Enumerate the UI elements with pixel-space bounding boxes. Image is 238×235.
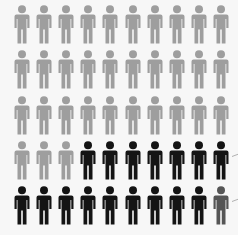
- person-icon: [80, 50, 96, 90]
- person-icon: [102, 186, 118, 226]
- person-icon: [125, 5, 141, 45]
- person-icon: [191, 5, 207, 45]
- person-icon: [169, 141, 185, 181]
- person-icon: [169, 5, 185, 45]
- person-icon: [36, 50, 52, 90]
- person-icon: [58, 50, 74, 90]
- person-icon: [36, 186, 52, 226]
- person-icon: [125, 50, 141, 90]
- person-icon: [169, 186, 185, 226]
- person-icon: [36, 5, 52, 45]
- person-icon: [125, 96, 141, 136]
- person-icon: [147, 141, 163, 181]
- person-icon: [147, 186, 163, 226]
- person-icon: [80, 186, 96, 226]
- person-icon: [102, 50, 118, 90]
- person-icon: [213, 5, 229, 45]
- person-icon: [191, 186, 207, 226]
- person-icon: [213, 50, 229, 90]
- person-icon: [147, 5, 163, 45]
- person-icon: [14, 5, 30, 45]
- person-icon: [191, 96, 207, 136]
- person-icon: [80, 5, 96, 45]
- person-icon: [36, 141, 52, 181]
- person-icon: [213, 186, 229, 226]
- person-icon: [80, 96, 96, 136]
- person-icon: [14, 186, 30, 226]
- person-icon: [14, 96, 30, 136]
- person-icon: [125, 186, 141, 226]
- person-icon: [191, 141, 207, 181]
- pictogram-grid: [0, 0, 238, 235]
- person-icon: [102, 5, 118, 45]
- person-icon: [36, 96, 52, 136]
- person-icon: [147, 96, 163, 136]
- person-icon: [80, 141, 96, 181]
- person-icon: [58, 186, 74, 226]
- person-icon: [213, 141, 229, 181]
- person-icon: [58, 96, 74, 136]
- person-icon: [102, 141, 118, 181]
- person-icon: [102, 96, 118, 136]
- person-icon: [213, 96, 229, 136]
- person-icon: [147, 50, 163, 90]
- person-icon: [169, 96, 185, 136]
- pointer-line-icon: [232, 198, 238, 202]
- pointer-line-icon: [232, 153, 238, 157]
- person-icon: [58, 5, 74, 45]
- person-icon: [191, 50, 207, 90]
- person-icon: [125, 141, 141, 181]
- person-icon: [14, 141, 30, 181]
- person-icon: [14, 50, 30, 90]
- person-icon: [58, 141, 74, 181]
- person-icon: [169, 50, 185, 90]
